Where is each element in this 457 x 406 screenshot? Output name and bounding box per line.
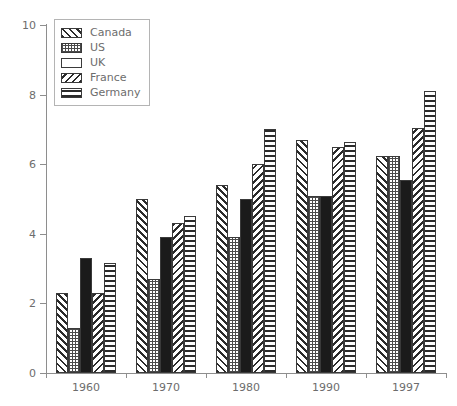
y-axis-tick-label: 4 <box>0 227 36 240</box>
y-axis-tick-label: 2 <box>0 297 36 310</box>
bar-france-1980 <box>252 164 264 373</box>
x-axis-tick-label: 1970 <box>152 381 180 394</box>
legend-item-us: US <box>61 40 141 55</box>
bar-france-1970 <box>172 223 184 373</box>
legend-label: Canada <box>90 27 132 39</box>
x-axis-tick-label: 1960 <box>72 381 100 394</box>
bar-uk-1980 <box>240 199 252 373</box>
bar-germany-1997 <box>424 91 436 373</box>
bar-france-1960 <box>92 293 104 373</box>
bar-chart: 0246810 19601970198019901997 CanadaUSUKF… <box>0 0 457 406</box>
bar-us-1990 <box>308 196 320 373</box>
legend-item-canada: Canada <box>61 25 141 40</box>
y-axis-tick-label: 6 <box>0 158 36 171</box>
bar-canada-1970 <box>136 199 148 373</box>
x-axis-tick-label: 1990 <box>312 381 340 394</box>
bar-uk-1960 <box>80 258 92 373</box>
chart-legend: CanadaUSUKFranceGermany <box>54 19 150 106</box>
x-axis-tick <box>286 373 287 378</box>
x-axis-tick <box>206 373 207 378</box>
bar-canada-1990 <box>296 140 308 373</box>
x-axis-tick <box>366 373 367 378</box>
bar-us-1970 <box>148 279 160 373</box>
bar-us-1960 <box>68 328 80 373</box>
bar-france-1990 <box>332 147 344 373</box>
bar-germany-1960 <box>104 263 116 373</box>
x-axis-tick <box>46 373 47 378</box>
legend-swatch-us-icon <box>61 43 82 53</box>
bar-uk-1997 <box>400 180 412 373</box>
x-axis-tick <box>126 373 127 378</box>
x-axis-tick-label: 1997 <box>392 381 420 394</box>
legend-label: Germany <box>90 87 141 99</box>
legend-item-uk: UK <box>61 55 141 70</box>
bar-canada-1960 <box>56 293 68 373</box>
y-axis-tick-label: 10 <box>0 19 36 32</box>
bar-france-1997 <box>412 128 424 373</box>
y-axis-tick-label: 8 <box>0 88 36 101</box>
x-axis-tick-label: 1980 <box>232 381 260 394</box>
legend-swatch-france-icon <box>61 73 82 83</box>
legend-swatch-canada-icon <box>61 28 82 38</box>
bar-canada-1980 <box>216 185 228 373</box>
x-axis-tick <box>446 373 447 378</box>
bar-canada-1997 <box>376 156 388 374</box>
y-axis-tick-label: 0 <box>0 367 36 380</box>
legend-item-france: France <box>61 70 141 85</box>
bar-germany-1980 <box>264 129 276 373</box>
legend-item-germany: Germany <box>61 85 141 100</box>
bar-uk-1990 <box>320 196 332 373</box>
bar-uk-1970 <box>160 237 172 373</box>
bar-germany-1970 <box>184 216 196 373</box>
legend-label: France <box>90 72 127 84</box>
legend-swatch-uk-icon <box>61 58 82 68</box>
x-axis-line <box>46 373 446 374</box>
bar-us-1997 <box>388 156 400 374</box>
bar-us-1980 <box>228 237 240 373</box>
legend-label: UK <box>90 57 105 69</box>
bar-germany-1990 <box>344 142 356 373</box>
legend-swatch-germany-icon <box>61 88 82 98</box>
legend-label: US <box>90 42 105 54</box>
